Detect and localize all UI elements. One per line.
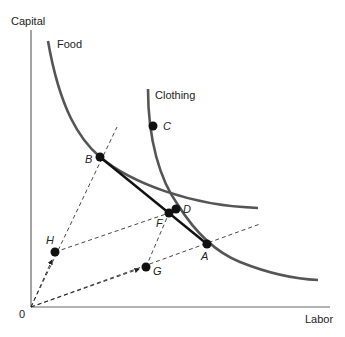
label-G: G: [153, 265, 162, 277]
label-C: C: [163, 120, 171, 132]
label-A: A: [200, 250, 208, 262]
ray-0-B: [31, 127, 117, 307]
point-G: [142, 263, 151, 272]
point-H: [51, 248, 60, 257]
x-axis-label: Labor: [305, 313, 333, 325]
label-H: H: [46, 234, 54, 246]
origin-label: 0: [19, 308, 25, 320]
y-axis-label: Capital: [11, 15, 45, 27]
label-D: D: [183, 203, 191, 215]
clothing-label: Clothing: [155, 89, 195, 101]
point-C: [149, 122, 158, 131]
point-A: [203, 240, 212, 249]
arrow-0-H: [31, 260, 52, 307]
food-label: Food: [57, 38, 82, 50]
isoquant-diagram: Capital Labor 0 Food Clothing B C D F A …: [0, 0, 345, 337]
point-B: [96, 153, 105, 162]
clothing-isoquant: [148, 89, 318, 280]
dash-H-F: [55, 213, 169, 252]
label-B: B: [85, 153, 92, 165]
arrow-0-G: [31, 269, 139, 307]
point-F: [165, 209, 174, 218]
